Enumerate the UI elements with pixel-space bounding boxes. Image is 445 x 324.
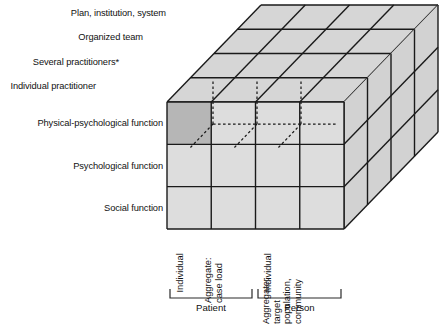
figure-container: .f-light{fill:#dddddd;} .f-dark{fill:#b6… xyxy=(0,0,445,324)
cell-social-aggregate-target xyxy=(300,187,344,229)
cell-physical-psychological-individual-person xyxy=(256,102,300,144)
cell-physical-psychological-individual-patient xyxy=(167,102,211,144)
column-label-aggregate-case-load: Aggregate: case load xyxy=(203,258,224,304)
row-label-social-function: Social function xyxy=(104,203,163,213)
cube-front-face xyxy=(167,102,344,229)
cell-psychological-aggregate-caseload xyxy=(211,144,255,186)
cell-social-aggregate-caseload xyxy=(211,187,255,229)
group-label-patient: Patient xyxy=(170,302,252,313)
depth-label-individual-practitioner: Individual practitioner xyxy=(10,81,96,91)
cell-physical-psychological-aggregate-caseload xyxy=(211,102,255,144)
column-label-individual-patient: Individual xyxy=(175,253,186,292)
group-brackets xyxy=(170,289,341,298)
depth-label-several-practitioners: Several practitioners* xyxy=(33,57,119,67)
cell-psychological-individual-patient xyxy=(167,144,211,186)
depth-label-plan-institution-system: Plan, institution, system xyxy=(71,8,166,18)
cell-physical-psychological-aggregate-target xyxy=(300,102,344,144)
cell-psychological-aggregate-target xyxy=(300,144,344,186)
cell-social-individual-person xyxy=(256,187,300,229)
row-label-psychological-function: Psychological function xyxy=(73,161,163,171)
row-label-physical-psychological-function: Physical-psychological function xyxy=(37,118,163,128)
group-label-person: Person xyxy=(258,302,341,313)
depth-label-organized-team: Organized team xyxy=(78,32,143,42)
cell-psychological-individual-person xyxy=(256,144,300,186)
cell-social-individual-patient xyxy=(167,187,211,229)
